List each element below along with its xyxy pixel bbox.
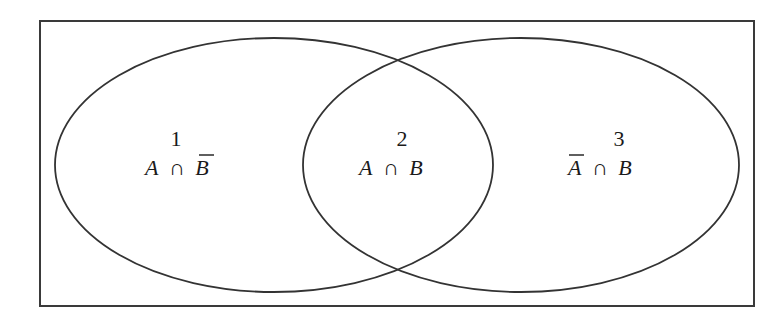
region-2-right-operand: B — [409, 155, 422, 180]
region-1-formula: A ∩ B — [143, 155, 209, 180]
region-1-number: 1 — [171, 126, 182, 151]
intersection-symbol: ∩ — [169, 155, 185, 180]
region-3-number: 3 — [614, 126, 625, 151]
region-3-formula: A ∩ B — [566, 155, 632, 180]
region-2-left-operand: A — [357, 155, 373, 180]
region-2-number: 2 — [397, 126, 408, 151]
region-2-label: 2 A ∩ B — [357, 126, 423, 180]
region-2-formula: A ∩ B — [357, 155, 423, 180]
region-3-right-operand: B — [618, 155, 631, 180]
region-1-label: 1 A ∩ B — [143, 126, 214, 180]
set-a-ellipse — [55, 38, 493, 292]
venn-diagram: 1 A ∩ B 2 A ∩ B 3 A ∩ B — [0, 0, 783, 316]
region-1-right-operand: B — [195, 155, 208, 180]
region-3-label: 3 A ∩ B — [566, 126, 632, 180]
intersection-symbol: ∩ — [592, 155, 608, 180]
region-1-left-operand: A — [143, 155, 159, 180]
region-3-left-operand: A — [566, 155, 582, 180]
intersection-symbol: ∩ — [383, 155, 399, 180]
